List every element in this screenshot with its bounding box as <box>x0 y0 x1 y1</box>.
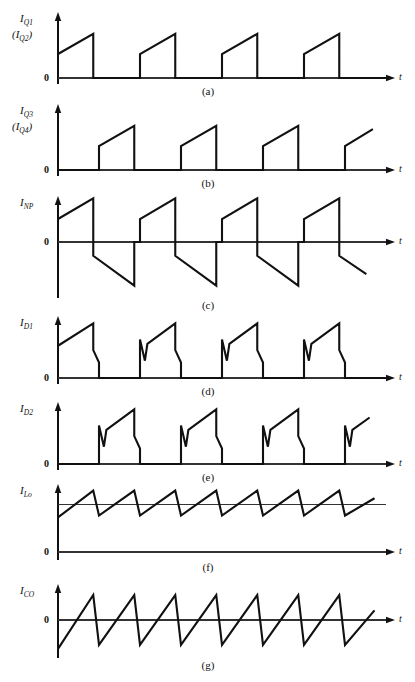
panel-b-ylabel: IQ3 <box>20 105 33 119</box>
panel-caption-b: (b) <box>188 178 228 189</box>
panel-f-zero-label: 0 <box>44 547 49 557</box>
panel-a-zero-label: 0 <box>44 73 49 83</box>
panel-e-time-axis-label: t <box>399 458 402 468</box>
panel-e-ylabel: ID2 <box>20 403 33 417</box>
waveform-trace-b <box>58 126 373 170</box>
panel-d-time-axis-label: t <box>399 372 402 382</box>
panel-f-ylabel: ILo <box>20 485 32 499</box>
waveform-panel-d: ID10t <box>0 312 415 386</box>
waveform-trace-e <box>58 409 370 464</box>
panel-a-ylabel-alt: (IQ2) <box>12 29 32 43</box>
panel-g-zero-label: 0 <box>44 615 49 625</box>
waveform-figure: IQ1(IQ2)0t(a)IQ3(IQ4)0t(b)INP0t(c)ID10t(… <box>0 0 415 682</box>
panel-b-ylabel-alt: (IQ4) <box>12 121 32 135</box>
panel-c-zero-label: 0 <box>44 237 49 247</box>
waveform-panel-c: INP0t <box>0 190 415 300</box>
waveform-panel-b: IQ3(IQ4)0t <box>0 100 415 178</box>
panel-caption-d: (d) <box>188 386 228 397</box>
waveform-trace-d <box>58 323 386 378</box>
waveform-trace-a <box>58 34 386 78</box>
panel-caption-g: (g) <box>188 660 228 671</box>
waveform-trace-g <box>58 595 375 649</box>
panel-b-time-axis-label: t <box>399 164 402 174</box>
waveform-panel-e: ID20t <box>0 398 415 472</box>
panel-a-ylabel: IQ1 <box>20 13 33 27</box>
panel-d-zero-label: 0 <box>44 373 49 383</box>
waveform-panel-f: ILo0t <box>0 480 415 562</box>
panel-c-ylabel: INP <box>20 197 34 211</box>
panel-g-time-axis-label: t <box>399 614 402 624</box>
panel-f-time-axis-label: t <box>399 546 402 556</box>
panel-g-ylabel: ICO <box>20 585 34 599</box>
panel-caption-c: (c) <box>188 300 228 311</box>
waveform-panel-a: IQ1(IQ2)0t <box>0 8 415 86</box>
panel-d-ylabel: ID1 <box>20 317 33 331</box>
panel-e-zero-label: 0 <box>44 459 49 469</box>
panel-a-time-axis-label: t <box>399 72 402 82</box>
panel-caption-f: (f) <box>188 562 228 573</box>
panel-caption-a: (a) <box>188 86 228 97</box>
panel-c-time-axis-label: t <box>399 236 402 246</box>
panel-b-zero-label: 0 <box>44 165 49 175</box>
waveform-panel-g: ICO0t <box>0 578 415 660</box>
